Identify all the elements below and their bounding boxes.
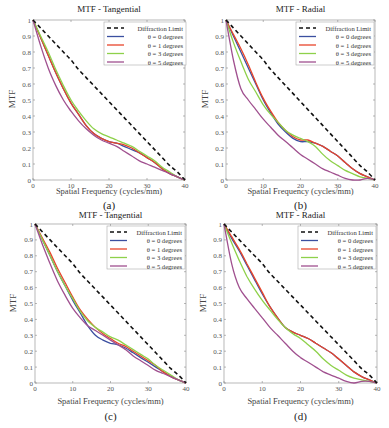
y-tick-label: 0.7 [215,65,224,73]
y-tick-label: 0.3 [24,332,33,340]
panel-b-xlabel: Spatial Frequency (cycles/mm) [226,186,375,196]
legend-label: θ = 0 degrees [338,237,374,244]
y-tick-label: 1 [219,221,223,229]
legend-label: θ = 5 degrees [148,59,184,66]
legend: Diffraction Limitθ = 0 degreesθ = 1 degr… [298,226,376,270]
y-tick-label: 0.7 [24,268,33,276]
panel-d-title: MTF - Radial [224,210,377,220]
y-tick-label: 0.3 [215,129,224,137]
y-tick-label: 0.2 [213,348,222,356]
legend-label: θ = 3 degrees [148,50,184,57]
panel-a-title: MTF - Tangential [33,4,185,14]
x-tick-label: 30 [335,385,343,393]
legend-label: θ = 1 degrees [336,42,372,49]
y-tick-label: 0.4 [24,316,33,324]
legend: Diffraction Limitθ = 0 degreesθ = 1 degr… [104,22,186,66]
legend-label: θ = 3 degrees [338,254,374,261]
legend-label: θ = 0 degrees [148,33,184,40]
panel-b-title: MTF - Radial [226,4,375,14]
legend-label: θ = 5 degrees [336,59,372,66]
panel-a-xlabel: Spatial Frequency (cycles/mm) [33,186,185,196]
y-tick-label: 0.9 [213,236,222,244]
y-tick-label: 1 [30,221,34,229]
panel-b-plot: 00.10.20.30.40.50.60.70.80.91010203040Di… [215,17,379,191]
y-tick-label: 0.8 [215,49,224,57]
legend-label: θ = 5 degrees [147,263,183,270]
y-tick-label: 0.2 [22,145,31,153]
x-tick-label: 20 [297,385,305,393]
y-tick-label: 0.8 [22,49,31,57]
panel-c-xlabel: Spatial Frequency (cycles/mm) [35,396,186,406]
y-tick-label: 0.9 [22,33,31,41]
y-tick-label: 0.4 [215,113,224,121]
y-tick-label: 1 [28,17,32,25]
panel-b-ylabel: MTF [200,84,210,114]
legend: Diffraction Limitθ = 0 degreesθ = 1 degr… [107,226,185,270]
panel-c-title: MTF - Tangential [35,210,186,220]
legend-label: θ = 1 degrees [147,246,183,253]
y-tick-label: 0.6 [213,284,222,292]
y-tick-label: 0.8 [213,252,222,260]
legend-label: θ = 0 degrees [336,33,372,40]
y-tick-label: 0.7 [22,65,31,73]
panel-c-ylabel: MTF [8,288,18,318]
panel-a-plot: 00.10.20.30.40.50.60.70.80.91010203040Di… [22,17,189,191]
y-tick-label: 0.1 [213,364,222,372]
y-tick-label: 1 [221,17,225,25]
panel-d-ylabel: MTF [198,288,208,318]
y-tick-label: 0.3 [213,332,222,340]
legend-label: Diffraction Limit [326,25,372,32]
legend-label: θ = 1 degrees [338,246,374,253]
panel-d-caption: (d) [224,410,377,422]
y-tick-label: 0.5 [24,300,33,308]
legend-label: Diffraction Limit [137,229,183,236]
x-tick-label: 20 [107,385,115,393]
x-tick-label: 30 [145,385,153,393]
y-tick-label: 0.6 [22,81,31,89]
y-tick-label: 0.6 [24,284,33,292]
x-tick-label: 0 [33,385,37,393]
legend-label: θ = 5 degrees [338,263,374,270]
y-tick-label: 0.2 [215,145,224,153]
y-tick-label: 0.1 [24,364,33,372]
y-tick-label: 0.1 [22,161,31,169]
y-tick-label: 0.5 [215,97,224,105]
x-tick-label: 10 [69,385,77,393]
y-tick-label: 0.6 [215,81,224,89]
x-tick-label: 40 [374,385,382,393]
y-tick-label: 0.4 [213,316,222,324]
x-tick-label: 40 [183,385,191,393]
y-tick-label: 0.5 [22,97,31,105]
y-tick-label: 0.4 [22,113,31,121]
y-tick-label: 0.7 [213,268,222,276]
y-tick-label: 0.8 [24,252,33,260]
x-tick-label: 0 [222,385,226,393]
panel-c-plot: 00.10.20.30.40.50.60.70.80.91010203040Di… [24,221,190,394]
panel-c-caption: (c) [35,410,186,422]
y-tick-label: 0.5 [213,300,222,308]
panel-a-ylabel: MTF [7,84,17,114]
legend: Diffraction Limitθ = 0 degreesθ = 1 degr… [296,22,374,66]
x-tick-label: 10 [259,385,267,393]
legend-label: Diffraction Limit [328,229,374,236]
legend-label: Diffraction Limit [138,25,184,32]
panel-d-plot: 00.10.20.30.40.50.60.70.80.91010203040Di… [213,221,381,394]
panel-d-xlabel: Spatial Frequency (cycles/mm) [224,396,377,406]
y-tick-label: 0.1 [215,161,224,169]
y-tick-label: 0.3 [22,129,31,137]
legend-label: θ = 3 degrees [336,50,372,57]
legend-label: θ = 1 degrees [148,42,184,49]
y-tick-label: 0.2 [24,348,33,356]
mtf-figure: 00.10.20.30.40.50.60.70.80.91010203040Di… [0,0,389,428]
legend-label: θ = 3 degrees [147,254,183,261]
y-tick-label: 0.9 [215,33,224,41]
legend-label: θ = 0 degrees [147,237,183,244]
y-tick-label: 0.9 [24,236,33,244]
